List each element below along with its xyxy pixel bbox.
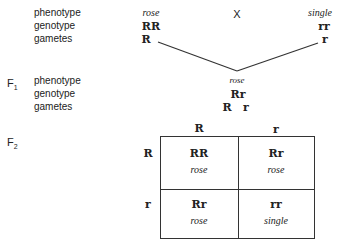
f2-row-header-R: R [143, 147, 152, 160]
f1-phenotype: rose [229, 75, 244, 85]
f2-col-header-r: r [273, 123, 279, 136]
f1-gametes-label: gametes [34, 101, 72, 112]
cell-rr-genotype: rr [270, 198, 282, 211]
cell-Rr-bottom-genotype: Rr [192, 198, 207, 211]
f2-row-header-r: r [145, 198, 151, 211]
f1-phenotype-label: phenotype [34, 75, 81, 86]
f1-genotype-label: genotype [34, 88, 75, 99]
punnett-divider-horizontal [161, 189, 314, 190]
f1-gamete-r: r [243, 101, 249, 114]
f2-col-header-R: R [194, 122, 203, 135]
cell-RR-phenotype: rose [191, 164, 208, 175]
cell-Rr-top-phenotype: rose [268, 164, 285, 175]
cell-rr-phenotype: single [264, 215, 288, 226]
cell-Rr-top-genotype: Rr [269, 147, 284, 160]
punnett-divider-vertical [238, 137, 239, 238]
f2-generation-label: F2 [7, 136, 18, 150]
f1-gamete-R: R [222, 101, 231, 114]
cell-Rr-bottom-phenotype: rose [191, 215, 208, 226]
f1-generation-label: F1 [7, 77, 18, 91]
cell-RR-genotype: RR [190, 147, 208, 160]
punnett-square [160, 136, 315, 239]
f1-genotype: Rr [231, 88, 246, 101]
